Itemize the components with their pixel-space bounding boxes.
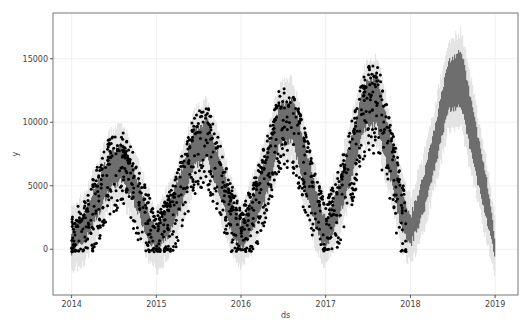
y-tick-label: 5000 [28, 182, 48, 191]
x-tick-label: 2014 [61, 300, 81, 309]
y-tick-label: 10000 [23, 118, 48, 127]
y-axis-label: y [11, 151, 20, 156]
x-tick-label: 2019 [485, 300, 505, 309]
x-tick-label: 2015 [146, 300, 166, 309]
x-axis: 201420152016201720182019 [61, 295, 505, 309]
y-tick-label: 15000 [23, 55, 48, 64]
y-axis: 050001000015000 [23, 55, 53, 255]
x-axis-label: ds [281, 311, 290, 320]
y-tick-label: 0 [43, 245, 48, 254]
x-tick-label: 2017 [316, 300, 336, 309]
forecast-chart: 201420152016201720182019 050001000015000… [0, 0, 532, 332]
x-tick-label: 2016 [231, 300, 251, 309]
x-tick-label: 2018 [400, 300, 420, 309]
